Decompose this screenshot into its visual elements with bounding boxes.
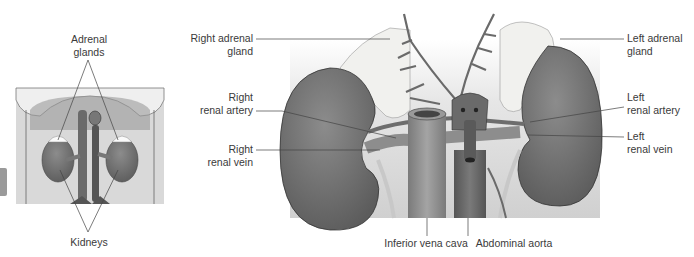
label-line: Right adrenal — [160, 32, 253, 45]
label-line: Left — [627, 91, 694, 104]
abdominal-aorta-label: Abdominal aorta — [454, 237, 574, 250]
right-adrenal-gland-label: Right adrenal gland — [160, 32, 253, 58]
label-line: renal vein — [160, 156, 253, 169]
right-renal-artery-label: Right renal artery — [160, 91, 253, 117]
label-line: Left — [627, 130, 694, 143]
label-line: Left adrenal — [627, 32, 694, 45]
label-line: renal artery — [627, 104, 694, 117]
label-line: renal vein — [627, 143, 694, 156]
left-adrenal-gland-label: Left adrenal gland — [627, 32, 694, 58]
label-line: gland — [627, 45, 694, 58]
torso-overview — [16, 88, 164, 204]
right-renal-vein-label: Right renal vein — [160, 143, 253, 169]
label-line: Right — [160, 91, 253, 104]
label-line: renal artery — [160, 104, 253, 117]
label-line: gland — [160, 45, 253, 58]
label-line: Adrenal — [58, 33, 120, 46]
left-renal-artery-label: Left renal artery — [627, 91, 694, 117]
kidneys-label: Kidneys — [58, 236, 120, 249]
adrenal-glands-label: Adrenal glands — [58, 33, 120, 59]
label-line: glands — [58, 46, 120, 59]
left-renal-vein-label: Left renal vein — [627, 130, 694, 156]
label-line: Right — [160, 143, 253, 156]
